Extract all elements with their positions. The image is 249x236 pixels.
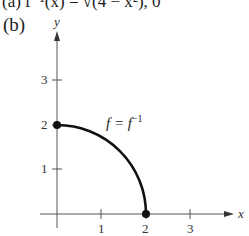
x-tick-label-1: 1 <box>98 221 105 236</box>
graph: y x 1 2 3 1 2 3 f = f−1 <box>0 0 249 236</box>
y-axis-label: y <box>52 14 60 29</box>
quarter-circle-curve <box>57 125 146 214</box>
y-axis-arrow-icon <box>54 31 60 41</box>
curve-label-superscript: −1 <box>132 113 143 124</box>
y-tick-label-3: 3 <box>41 72 48 87</box>
curve-label-main: f = f <box>106 115 134 131</box>
curve-label: f = f−1 <box>106 113 143 131</box>
endpoint-0-2 <box>53 121 61 129</box>
y-tick-label-1: 1 <box>41 161 48 176</box>
x-axis-arrow-icon <box>224 211 234 217</box>
x-tick-label-3: 3 <box>187 221 194 236</box>
y-tick-label-2: 2 <box>41 117 48 132</box>
endpoint-2-0 <box>142 210 150 218</box>
x-axis-label: x <box>237 206 244 221</box>
x-tick-label-2: 2 <box>142 221 149 236</box>
